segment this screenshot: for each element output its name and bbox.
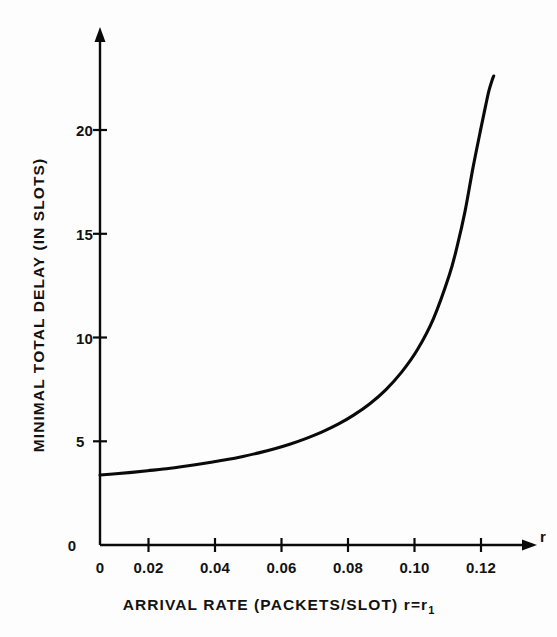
y-tick-label-0: 0: [68, 537, 76, 554]
y-tick-label-15: 15: [76, 226, 93, 241]
x-tick-label-0.06: 0.06: [267, 560, 297, 575]
plot-canvas: [0, 0, 557, 637]
y-tick-label-20: 20: [76, 123, 93, 138]
x-tick-label-0.08: 0.08: [333, 560, 363, 575]
delay-curve: [100, 76, 494, 475]
x-axis-title: ARRIVAL RATE (PACKETS/SLOT) r=r1: [0, 596, 557, 616]
x-axis-variable-label: r: [540, 528, 546, 545]
y-axis-title: MINIMAL TOTAL DELAY (IN SLOTS): [30, 90, 48, 520]
x-axis-title-subscript: 1: [428, 604, 434, 616]
x-tick-label-0.12: 0.12: [466, 560, 496, 575]
x-tick-label-0.04: 0.04: [200, 560, 230, 575]
x-tick-label-0.02: 0.02: [134, 560, 164, 575]
x-tick-label-0.10: 0.10: [400, 560, 430, 575]
y-tick-label-5: 5: [76, 434, 85, 449]
y-tick-label-10: 10: [76, 330, 93, 345]
x-axis-title-main: ARRIVAL RATE (PACKETS/SLOT) r=r: [123, 596, 429, 613]
x-tick-label-0: 0: [96, 560, 105, 575]
figure-container: 5 10 15 20 0 0 0.02 0.04 0.06 0.08 0.10 …: [0, 0, 557, 637]
y-axis-arrowhead: [95, 27, 106, 42]
x-axis-arrowhead: [522, 540, 537, 551]
